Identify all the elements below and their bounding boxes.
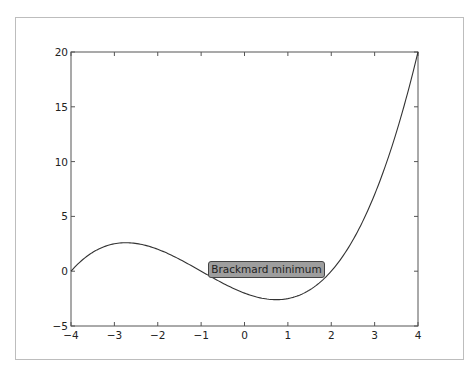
y-tick-label: −5: [53, 320, 68, 332]
y-tick-label: 20: [55, 46, 68, 58]
x-tick-label: 0: [241, 329, 248, 341]
y-tick-label: 15: [55, 101, 68, 113]
line-chart: −4−3−2−101234−505101520: [0, 0, 475, 368]
axes-box: [71, 52, 418, 326]
x-tick-label: 1: [285, 329, 292, 341]
x-tick-label: 3: [371, 329, 378, 341]
annotation-brackmard-minimum: Brackmard minimum: [208, 261, 324, 278]
y-tick-label: 5: [61, 210, 68, 222]
x-tick-label: 2: [328, 329, 335, 341]
y-tick-label: 10: [55, 156, 68, 168]
x-tick-label: −3: [107, 329, 122, 341]
x-tick-label: 4: [415, 329, 422, 341]
x-tick-label: −2: [150, 329, 165, 341]
y-tick-label: 0: [61, 265, 68, 277]
x-tick-label: −1: [193, 329, 208, 341]
